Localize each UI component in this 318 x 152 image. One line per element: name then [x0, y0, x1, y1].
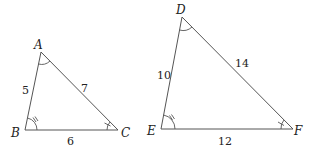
triangle-abc: A B C 5 7 6 [10, 38, 130, 148]
angle-e-tick-2 [172, 115, 175, 120]
vertex-label-a: A [33, 38, 43, 52]
angle-b-arc [28, 118, 38, 130]
side-length-ab: 5 [22, 84, 29, 97]
side-length-ac: 7 [81, 82, 88, 95]
side-length-de: 10 [157, 69, 171, 82]
vertex-label-c: C [121, 126, 130, 140]
angle-d-arc [180, 27, 193, 31]
angle-a-arc [39, 61, 51, 64]
side-length-bc: 6 [67, 135, 74, 148]
side-length-df: 14 [235, 57, 249, 70]
triangle-def: D E F 10 14 12 [146, 3, 303, 148]
side-length-ef: 12 [218, 135, 232, 148]
vertex-label-e: E [146, 124, 156, 138]
similar-triangles-diagram: A B C 5 7 6 D E F 10 14 12 [0, 0, 318, 152]
triangle-def-edges [161, 17, 293, 129]
angle-b-tick-2 [35, 117, 38, 122]
vertex-label-f: F [293, 124, 303, 138]
vertex-label-b: B [10, 126, 20, 140]
vertex-label-d: D [175, 3, 186, 17]
